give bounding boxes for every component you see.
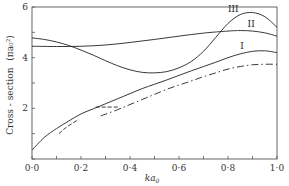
- x-tick-label: 0·8: [221, 163, 236, 173]
- y-tick-label: 6: [22, 2, 28, 12]
- curve-label-ii: II: [248, 19, 256, 29]
- curve-label-iii: III: [228, 4, 239, 14]
- curve-i: [32, 51, 277, 150]
- x-axis-title: ka0: [145, 173, 160, 184]
- y-axis-ticks: 246: [22, 2, 35, 159]
- x-tick-label: 0·2: [74, 163, 88, 173]
- y-tick-label: 2: [22, 103, 28, 113]
- curve-label-i: I: [240, 41, 244, 51]
- cross-section-chart: 0·00·20·40·60·81·0 246 IIIIII ka0 Cross …: [0, 0, 289, 186]
- plot-curves: [32, 12, 277, 150]
- x-tick-label: 0·4: [123, 163, 138, 173]
- x-tick-label: 0·0: [25, 163, 40, 173]
- curve-labels: IIIIII: [228, 4, 255, 51]
- x-tick-label: 1·0: [270, 163, 285, 173]
- x-tick-label: 0·6: [172, 163, 187, 173]
- svg-text:Cross - section (πa₀²): Cross - section (πa₀²): [5, 35, 15, 135]
- y-axis-title: Cross - section (πa₀²): [5, 35, 15, 135]
- y-tick-label: 4: [22, 53, 28, 63]
- plot-border: [32, 7, 277, 159]
- plot-frame: [32, 7, 277, 159]
